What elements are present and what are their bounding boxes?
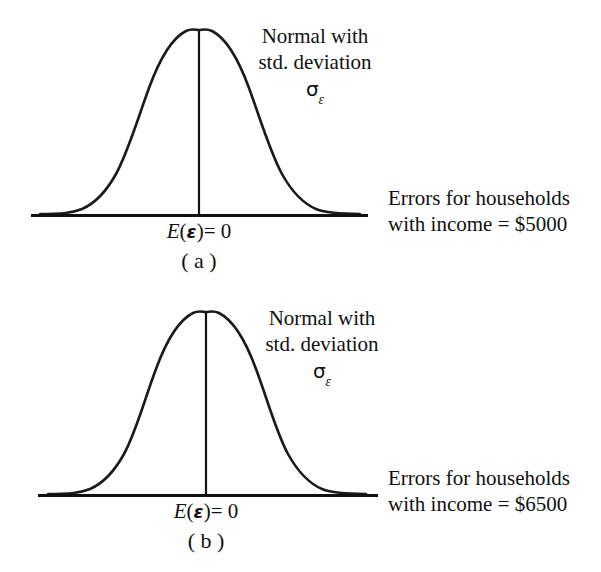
- mean-label-b: E(ε)= 0: [156, 499, 256, 525]
- figure-normal-error-distributions: Normal with std. deviation σε E(ε)= 0 ( …: [0, 0, 601, 572]
- sigma-symbol-a: σ: [306, 77, 319, 101]
- mean-label-b-equals: = 0: [211, 499, 239, 523]
- normal-note-a: Normal with std. deviation σε: [235, 24, 395, 105]
- side-note-a: Errors for households with income = $500…: [388, 185, 598, 238]
- side-note-b-line2: with income = $6500: [388, 491, 598, 517]
- normal-note-b-sigma: σε: [242, 359, 402, 387]
- side-note-a-line2: with income = $5000: [388, 211, 598, 237]
- normal-note-b-line2: std. deviation: [242, 332, 402, 358]
- mean-label-a-open: (: [180, 219, 187, 243]
- mean-label-a-epsilon: ε: [187, 221, 197, 242]
- side-note-a-line1: Errors for households: [388, 185, 598, 211]
- mean-label-b-open: (: [187, 499, 194, 523]
- side-note-b-line1: Errors for households: [388, 465, 598, 491]
- normal-note-a-sigma: σε: [235, 77, 395, 105]
- panel-a: Normal with std. deviation σε E(ε)= 0 ( …: [0, 0, 601, 286]
- mean-label-a-prefix: E: [167, 219, 180, 243]
- normal-note-a-line2: std. deviation: [235, 50, 395, 76]
- panel-b: Normal with std. deviation σε E(ε)= 0 ( …: [0, 286, 601, 572]
- normal-note-a-line1: Normal with: [235, 24, 395, 50]
- mean-label-b-prefix: E: [174, 499, 187, 523]
- panel-tag-a: ( a ): [149, 248, 249, 275]
- panel-tag-b: ( b ): [156, 528, 256, 555]
- mean-label-b-close: ): [204, 499, 211, 523]
- mean-label-a-equals: = 0: [204, 219, 232, 243]
- normal-note-b: Normal with std. deviation σε: [242, 306, 402, 387]
- sigma-subscript-b: ε: [326, 374, 332, 389]
- side-note-b: Errors for households with income = $650…: [388, 465, 598, 518]
- mean-label-b-epsilon: ε: [194, 501, 204, 522]
- mean-label-a: E(ε)= 0: [149, 219, 249, 245]
- sigma-symbol-b: σ: [313, 359, 326, 383]
- mean-label-a-close: ): [197, 219, 204, 243]
- sigma-subscript-a: ε: [319, 92, 325, 107]
- normal-note-b-line1: Normal with: [242, 306, 402, 332]
